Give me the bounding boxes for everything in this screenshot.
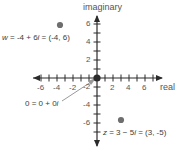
point-origin [93, 74, 100, 81]
y-tick-label-2: 2 [86, 56, 90, 64]
x-tick-label--4: -4 [53, 84, 60, 92]
real-axis-title: real [160, 83, 175, 92]
y-tick-label-4: 4 [86, 38, 90, 46]
x-tick-label-2: 2 [110, 84, 114, 92]
complex-plane-figure: imaginary real -6 -4 -2 2 4 6 6 4 2 -2 -… [0, 0, 185, 152]
x-tick-label-4: 4 [126, 84, 130, 92]
annotation-w: w = -4 + 6i = (-4, 6) [2, 34, 70, 42]
point-z [118, 117, 124, 123]
annotation-z-body: = 3 − 5 [107, 128, 134, 137]
y-tick-label--2: -2 [83, 83, 90, 91]
annotation-z: z = 3 − 5i = (3, -5) [103, 129, 166, 137]
y-tick-label--4: -4 [83, 101, 90, 109]
point-w [57, 22, 63, 28]
x-tick-label--6: -6 [37, 84, 44, 92]
x-tick-label-6: 6 [142, 84, 146, 92]
y-tick-label-6: 6 [86, 20, 90, 28]
x-tick-label--2: -2 [69, 84, 76, 92]
annotation-w-coords: = (-4, 6) [39, 33, 69, 42]
origin-leader-line [62, 78, 96, 101]
annotation-origin-body: 0 = 0 + 0 [25, 99, 57, 108]
annotation-origin-imaginary-unit: i [57, 99, 59, 108]
y-tick-label--6: -6 [83, 119, 90, 127]
annotation-z-coords: = (3, -5) [136, 128, 166, 137]
annotation-w-body: = -4 + 6 [8, 33, 38, 42]
annotation-origin: 0 = 0 + 0i [25, 100, 58, 108]
imaginary-axis-title: imaginary [83, 3, 122, 12]
